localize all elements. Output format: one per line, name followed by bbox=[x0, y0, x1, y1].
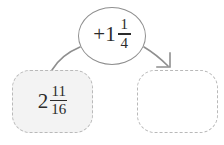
start-value: 2 11 16 bbox=[38, 85, 68, 118]
diagram-canvas: + 1 1 4 2 11 16 bbox=[0, 0, 224, 145]
answer-box[interactable] bbox=[137, 70, 218, 133]
output-curve bbox=[144, 47, 168, 66]
input-curve bbox=[52, 47, 80, 70]
operation-whole: 1 bbox=[105, 24, 116, 45]
start-denominator: 16 bbox=[50, 102, 67, 117]
start-numerator: 11 bbox=[51, 84, 67, 99]
start-value-box: 2 11 16 bbox=[12, 70, 93, 133]
operation-fraction: 1 4 bbox=[118, 17, 131, 50]
arrowhead-icon bbox=[157, 53, 170, 67]
operation-sign: + bbox=[93, 24, 105, 45]
operation-value: + 1 1 4 bbox=[93, 18, 130, 51]
operation-numerator: 1 bbox=[119, 17, 129, 32]
start-fraction: 11 16 bbox=[50, 84, 67, 117]
operation-bubble: + 1 1 4 bbox=[78, 7, 146, 65]
operation-denominator: 4 bbox=[119, 36, 129, 51]
start-whole: 2 bbox=[38, 91, 49, 112]
